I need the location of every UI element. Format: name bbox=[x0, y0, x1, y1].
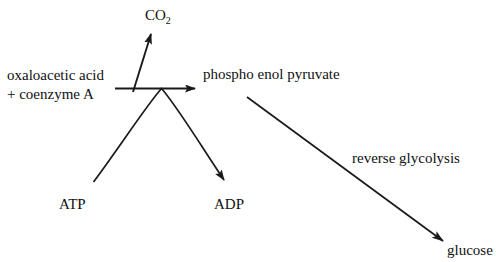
co2-label: CO2 bbox=[145, 6, 171, 24]
diagram-vector-layer bbox=[0, 0, 496, 262]
substrate-line-2: + coenzyme A bbox=[7, 85, 104, 104]
atp-label: ATP bbox=[59, 195, 86, 213]
co2-formula-text: CO bbox=[145, 7, 166, 23]
substrate-label: oxaloacetic acid + coenzyme A bbox=[7, 66, 104, 104]
adp-label: ADP bbox=[214, 195, 244, 213]
substrate-line-1: oxaloacetic acid bbox=[7, 66, 104, 85]
pathway-diagram-canvas: CO2 oxaloacetic acid + coenzyme A phosph… bbox=[0, 0, 496, 262]
co2-release-arrow bbox=[133, 34, 151, 92]
reverse-glycolysis-arrow bbox=[247, 97, 443, 241]
glucose-label: glucose bbox=[447, 241, 493, 259]
reverse-glycolysis-label: reverse glycolysis bbox=[352, 149, 460, 167]
atp-to-adp-arc bbox=[94, 89, 225, 183]
co2-subscript: 2 bbox=[166, 15, 171, 26]
product-label: phospho enol pyruvate bbox=[203, 65, 340, 83]
